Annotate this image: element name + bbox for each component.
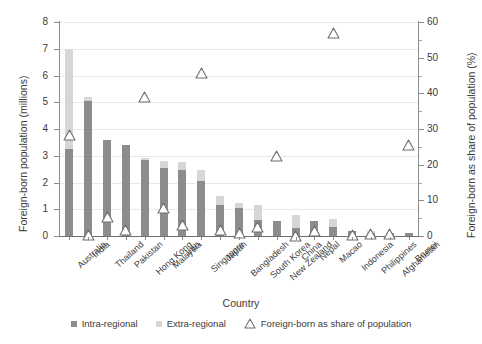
y-tick-label-left: 6 xyxy=(42,71,48,81)
y-tick-label-left: 2 xyxy=(42,178,48,188)
bar-segment-extra-regional xyxy=(84,97,92,101)
y-tick-right xyxy=(419,129,424,130)
bar-group xyxy=(197,170,205,236)
y-tick-label-left: 4 xyxy=(42,124,48,134)
gridline xyxy=(60,183,418,184)
legend-label: Foreign-born as share of population xyxy=(261,318,412,329)
legend-item[interactable]: Extra-regional xyxy=(156,318,226,329)
bar-segment-intra-regional xyxy=(405,233,413,236)
y-tick-label-right: 20 xyxy=(427,160,438,170)
y-tick-label-right: 40 xyxy=(427,88,438,98)
x-tick-mark xyxy=(182,237,183,240)
bar-group xyxy=(160,161,168,236)
y-tick-label-left: 7 xyxy=(42,44,48,54)
gridline xyxy=(60,156,418,157)
y-tick-right-minor xyxy=(419,40,422,41)
triangle-up-icon xyxy=(327,27,340,39)
bar-segment-intra-regional xyxy=(65,149,73,236)
x-tick-mark xyxy=(201,237,202,240)
bar-segment-intra-regional xyxy=(273,221,281,236)
gridline xyxy=(60,102,418,103)
bar-segment-intra-regional xyxy=(329,227,337,236)
legend-swatch xyxy=(156,321,162,327)
y-tick-right xyxy=(419,58,424,59)
bar-segment-extra-regional xyxy=(254,205,262,220)
bar-segment-extra-regional xyxy=(160,161,168,168)
x-tick-mark xyxy=(333,237,334,240)
bar-group xyxy=(273,221,281,236)
gridline xyxy=(60,22,418,23)
y-tick-label-left: 3 xyxy=(42,151,48,161)
bar-segment-extra-regional xyxy=(292,215,300,228)
bar-group xyxy=(329,219,337,236)
y-tick-right-minor xyxy=(419,76,422,77)
x-tick-label: Japan xyxy=(224,240,248,263)
y-tick-label-right: 10 xyxy=(427,195,438,205)
y-tick-right-minor xyxy=(419,218,422,219)
y-tick-left xyxy=(54,236,59,237)
bar-segment-intra-regional xyxy=(122,145,130,236)
y-axis-label-left: Foreign-born population (millions) xyxy=(17,76,29,232)
triangle-up-icon xyxy=(195,67,208,79)
legend-label: Intra-regional xyxy=(82,318,138,329)
x-tick-mark xyxy=(277,237,278,240)
y-tick-right-minor xyxy=(419,147,422,148)
y-tick-left xyxy=(54,183,59,184)
x-tick-mark xyxy=(371,237,372,240)
bar-segment-intra-regional xyxy=(197,181,205,236)
y-tick-right xyxy=(419,236,424,237)
gridline xyxy=(60,49,418,50)
plot-area xyxy=(60,22,418,236)
gridline xyxy=(60,129,418,130)
legend-item[interactable]: Intra-regional xyxy=(71,318,138,329)
bar-group xyxy=(122,145,130,236)
y-tick-right-minor xyxy=(419,183,422,184)
x-tick-label: Macao xyxy=(338,240,364,265)
triangle-up-icon xyxy=(101,211,114,223)
triangle-up-icon xyxy=(119,224,132,236)
triangle-up-icon xyxy=(402,139,415,151)
x-tick-mark xyxy=(352,237,353,240)
bar-segment-extra-regional xyxy=(197,170,205,181)
x-axis-label: Country xyxy=(0,297,482,309)
bar-group xyxy=(84,97,92,236)
x-tick-mark xyxy=(239,237,240,240)
y-tick-right xyxy=(419,93,424,94)
y-tick-label-right: 60 xyxy=(427,17,438,27)
triangle-up-icon xyxy=(270,150,283,162)
x-tick-mark xyxy=(69,237,70,240)
x-tick-label: India xyxy=(91,240,112,260)
bar-group xyxy=(141,158,149,236)
y-tick-left xyxy=(54,209,59,210)
y-tick-right-minor xyxy=(419,111,422,112)
y-tick-label-left: 5 xyxy=(42,97,48,107)
gridline xyxy=(60,76,418,77)
y-tick-right xyxy=(419,165,424,166)
bar-segment-extra-regional xyxy=(235,203,243,208)
legend-item[interactable]: Foreign-born as share of population xyxy=(244,318,412,329)
bar-segment-extra-regional xyxy=(141,158,149,159)
x-tick-mark xyxy=(220,237,221,240)
x-tick-mark xyxy=(258,237,259,240)
x-tick-mark xyxy=(126,237,127,240)
legend-swatch xyxy=(71,321,77,327)
triangle-up-icon xyxy=(176,219,189,231)
bar-segment-intra-regional xyxy=(84,101,92,236)
y-tick-label-left: 0 xyxy=(42,231,48,241)
y-tick-label-right: 50 xyxy=(427,53,438,63)
bar-segment-intra-regional xyxy=(141,160,149,236)
y-axis-label-right: Foreign-born as share of population (%) xyxy=(465,52,477,238)
x-tick-mark xyxy=(409,237,410,240)
x-tick-mark xyxy=(390,237,391,240)
y-tick-label-left: 1 xyxy=(42,204,48,214)
bar-group xyxy=(65,49,73,236)
x-tick-mark xyxy=(88,237,89,240)
y-tick-label-right: 30 xyxy=(427,124,438,134)
chart-figure: Foreign-born population (millions) Forei… xyxy=(0,0,482,344)
triangle-up-icon xyxy=(157,202,170,214)
x-tick-mark xyxy=(296,237,297,240)
chart-legend: Intra-regionalExtra-regionalForeign-born… xyxy=(0,318,482,329)
bar-segment-extra-regional xyxy=(216,196,224,205)
y-tick-left xyxy=(54,49,59,50)
x-tick-mark xyxy=(107,237,108,240)
